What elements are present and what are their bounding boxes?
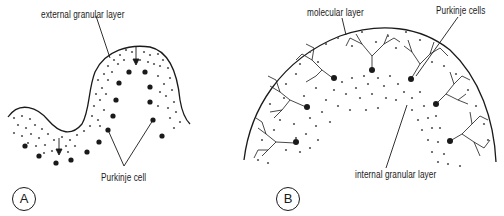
cerebellum-development-figure: external granular layer Purkinje cell A xyxy=(0,0,504,216)
panel-letter-b: B xyxy=(276,187,300,211)
pointer-internal-granular xyxy=(386,105,407,168)
pointer-molecular-layer xyxy=(342,18,346,35)
granule-cells-b xyxy=(257,31,489,167)
folium-outline-b xyxy=(244,28,496,162)
label-internal-granular-layer: internal granular layer xyxy=(355,169,436,180)
pointer-purkinje-cells xyxy=(416,17,458,76)
purkinje-cells-b xyxy=(293,67,453,145)
label-purkinje-cells: Purkinje cells xyxy=(436,5,485,16)
label-molecular-layer: molecular layer xyxy=(307,7,364,18)
purkinje-dendrites xyxy=(254,34,490,158)
panel-b-drawing xyxy=(0,0,504,216)
